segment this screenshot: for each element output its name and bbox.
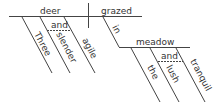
subject-conjunction: and bbox=[51, 20, 68, 30]
modifier-agile: agile bbox=[80, 36, 99, 60]
subject-word: deer bbox=[40, 6, 61, 16]
modifier-tranquil: tranquil bbox=[188, 57, 213, 92]
modifier-slender: slender bbox=[54, 30, 79, 64]
object-word: meadow bbox=[136, 37, 174, 47]
diagram-canvas: deer grazed and Three slender agile in m… bbox=[0, 0, 219, 111]
object-conjunction: and bbox=[161, 51, 178, 61]
sentence-diagram: deer grazed and Three slender agile in m… bbox=[0, 0, 219, 111]
modifier-lush: lush bbox=[164, 63, 182, 84]
modifier-three: Three bbox=[32, 29, 54, 58]
verb-word: grazed bbox=[101, 6, 132, 16]
